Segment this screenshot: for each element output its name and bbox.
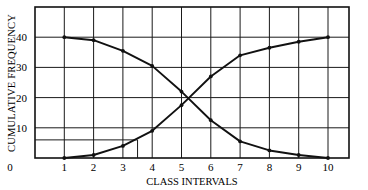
y-tick-label: 20: [16, 92, 28, 104]
data-point-marker: [121, 144, 125, 148]
grid-lines: [35, 7, 349, 158]
x-tick-label: 2: [91, 161, 97, 173]
data-point-marker: [209, 118, 213, 122]
data-point-marker: [62, 156, 66, 160]
x-tick-label: 1: [62, 161, 68, 173]
x-tick-label: 3: [120, 161, 126, 173]
y-tick-label: 40: [16, 31, 28, 43]
data-point-marker: [238, 139, 242, 143]
x-axis-label: CLASS INTERVALS: [146, 176, 238, 187]
data-point-marker: [326, 156, 330, 160]
data-point-marker: [238, 53, 242, 57]
data-point-marker: [268, 149, 272, 153]
data-point-marker: [150, 64, 154, 68]
data-point-marker: [297, 153, 301, 157]
data-point-marker: [180, 90, 184, 94]
y-axis-tick-labels: 10203040: [16, 31, 28, 134]
x-axis-tick-labels: 012345678910: [7, 161, 334, 173]
x-tick-label: 0: [7, 161, 13, 173]
data-point-marker: [121, 49, 125, 53]
data-point-marker: [180, 103, 184, 107]
data-point-marker: [326, 35, 330, 39]
x-tick-label: 10: [323, 161, 335, 173]
x-tick-label: 5: [179, 161, 185, 173]
data-point-marker: [62, 35, 66, 39]
y-tick-label: 30: [16, 61, 28, 73]
data-point-marker: [92, 38, 96, 42]
x-tick-label: 6: [208, 161, 214, 173]
plot-frame: [35, 7, 349, 158]
data-point-marker: [92, 153, 96, 157]
data-point-marker: [209, 75, 213, 79]
x-tick-label: 7: [237, 161, 243, 173]
y-axis-label: CUMULATIVE FREQUENCY: [6, 14, 17, 152]
y-tick-label: 10: [16, 122, 28, 134]
data-point-marker: [297, 40, 301, 44]
data-point-marker: [268, 46, 272, 50]
cumulative-frequency-chart: 10203040 012345678910 CUMULATIVE FREQUEN…: [0, 0, 368, 190]
x-tick-label: 8: [267, 161, 273, 173]
x-tick-label: 9: [296, 161, 302, 173]
x-tick-label: 4: [149, 161, 155, 173]
data-point-marker: [150, 129, 154, 133]
